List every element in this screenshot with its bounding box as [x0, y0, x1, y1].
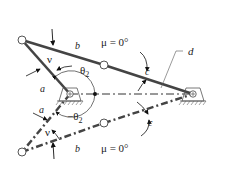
ground-pivot-left [56, 88, 83, 105]
label-a-upper: a [40, 83, 45, 94]
b-force-arrow-upper [52, 29, 53, 45]
mu-arrow-upper-bottom [138, 80, 146, 91]
label-theta2-lower: −θ2 [67, 110, 82, 125]
label-d: d [188, 45, 194, 57]
label-a-lower: a [39, 104, 44, 115]
label-theta2-upper: θ2 [80, 64, 89, 79]
d-leader-line [161, 51, 183, 88]
pin-bc-lower [100, 119, 108, 127]
nu-arrow-lower-right [52, 130, 60, 140]
label-nu-lower: ν [45, 126, 50, 138]
label-nu-upper: ν [47, 53, 52, 65]
label-c-lower: c [148, 117, 153, 128]
nu-arrow-upper-right [57, 66, 72, 70]
pin-ab-upper [18, 36, 26, 44]
label-c-upper: c [145, 66, 150, 77]
theta-vertex-dot [93, 92, 97, 96]
label-mu-lower: μ = 0° [101, 142, 129, 154]
pin-ab-lower [18, 148, 26, 156]
nu-arrow-upper-left [26, 69, 40, 76]
pin-bc-upper [100, 61, 108, 69]
b-force-arrow-lower [53, 143, 54, 159]
label-b-upper: b [75, 40, 80, 51]
label-b-lower: b [75, 143, 80, 154]
label-mu-upper: μ = 0° [101, 36, 129, 48]
fourbar-diagram: a b c d ν θ2 μ = 0° a b c ν −θ2 μ = 0° [0, 0, 226, 174]
